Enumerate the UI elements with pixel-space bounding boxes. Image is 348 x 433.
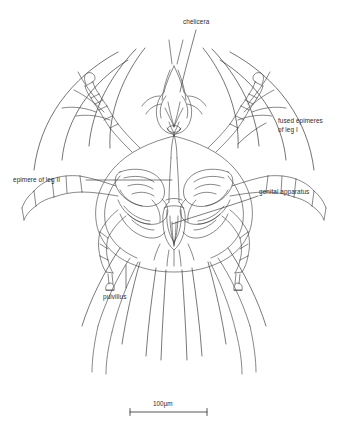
epimeral-plates-left: [115, 169, 168, 238]
genital-apparatus: [154, 158, 194, 266]
scale-bar: [130, 409, 207, 416]
figure-panel: chelicera fused epimeres of leg I epimer…: [0, 0, 348, 433]
leg-III-left: [99, 210, 127, 290]
leg-IV-left: [92, 258, 138, 374]
leg-I-left: [62, 72, 140, 152]
mite-ventral-drawing: [0, 0, 348, 433]
setae-upper-left: [34, 48, 145, 170]
label-fused-epimeres-leg-i-line2: of leg I: [278, 126, 298, 134]
label-epimere-of-leg-ii: epimere of leg II: [13, 176, 60, 184]
label-fused-epimeres-leg-i-line1: fused epimeres: [278, 117, 323, 125]
leg-II-right: [230, 176, 326, 220]
label-chelicera: chelicera: [183, 18, 209, 26]
setae-upper-right: [203, 48, 314, 170]
label-genital-apparatus: genital apparatus: [259, 188, 309, 196]
gnathosoma: [142, 40, 206, 158]
scale-bar-label: 100µm: [153, 400, 173, 407]
epimeral-plates-right: [180, 169, 233, 238]
label-pulvillus: pulvillus: [103, 293, 126, 301]
leg-III-right: [222, 210, 250, 290]
leader-lines: [86, 30, 266, 288]
leg-I-right: [208, 72, 286, 152]
leg-IV-right: [210, 258, 256, 374]
